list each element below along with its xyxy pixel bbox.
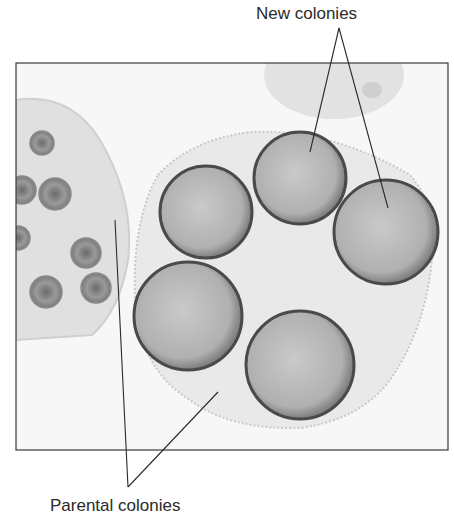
small-inner-colony [81,273,111,303]
small-inner-colony [6,226,30,250]
daughter-colony [160,166,252,258]
small-inner-colony [39,178,71,210]
small-inner-colony [71,238,101,268]
photo [6,31,448,450]
daughter-colony [134,262,242,370]
daughter-colony [254,132,346,224]
micrograph-figure [0,0,454,530]
daughter-colony [334,180,438,284]
small-inner-colony [30,131,54,155]
label-parental-colonies: Parental colonies [50,496,180,516]
label-new-colonies: New colonies [256,4,357,24]
small-inner-colony [8,176,36,204]
small-inner-colony [30,276,62,308]
daughter-colony [246,311,354,419]
partial-colony-top [264,31,404,119]
